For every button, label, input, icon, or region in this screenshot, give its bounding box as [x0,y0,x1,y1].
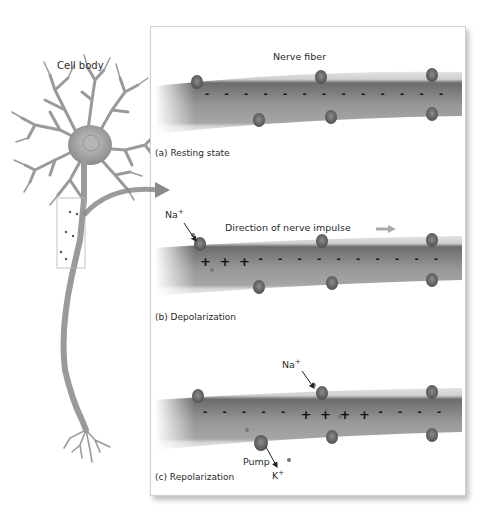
negative-charge: - [418,406,422,417]
panel-b-title: Direction of nerve impulse [225,222,351,233]
negative-charge: - [303,88,307,99]
nerve-fiber-label: Nerve fiber [273,51,326,62]
charges-panel-b: +++---------- [200,256,460,270]
negative-charge: - [361,88,365,99]
negative-charge: - [278,253,282,264]
k-ion-label: K+ [272,469,284,481]
negative-charge: - [415,253,419,264]
positive-charge: + [301,407,312,422]
charges-panel-a: ------------- [205,91,465,105]
negative-charge: - [322,88,326,99]
magnify-arrow [84,189,158,215]
negative-charge: - [400,88,404,99]
positive-charge: + [239,254,250,269]
panel-b-caption: (b) Depolarization [155,312,236,322]
positive-charge: + [200,254,211,269]
negative-charge: - [281,406,285,417]
negative-charge: - [264,88,268,99]
na-ion-label-c: Na+ [282,358,301,370]
negative-charge: - [203,406,207,417]
negative-charge: - [379,406,383,417]
charges-panel-c: -----++++---- [203,409,463,423]
negative-charge: - [205,88,209,99]
negative-charge: - [420,88,424,99]
pump-label: Pump [243,456,270,467]
negative-charge: - [434,253,438,264]
cell-body-label: Cell body [57,60,104,71]
negative-charge: - [337,253,341,264]
negative-charge: - [262,406,266,417]
panel-a-caption: (a) Resting state [155,148,230,158]
negative-charge: - [244,88,248,99]
negative-charge: - [225,88,229,99]
negative-charge: - [381,88,385,99]
na-ion-label-b: Na+ [165,208,184,220]
negative-charge: - [439,88,443,99]
negative-charge: - [242,406,246,417]
negative-charge: - [398,406,402,417]
negative-charge: - [317,253,321,264]
negative-charge: - [376,253,380,264]
positive-charge: + [220,254,231,269]
panel-c-caption: (c) Repolarization [155,472,234,482]
negative-charge: - [395,253,399,264]
negative-charge: - [259,253,263,264]
negative-charge: - [437,406,441,417]
negative-charge: - [342,88,346,99]
negative-charge: - [356,253,360,264]
negative-charge: - [223,406,227,417]
positive-charge: + [320,407,331,422]
negative-charge: - [283,88,287,99]
positive-charge: + [359,407,370,422]
positive-charge: + [340,407,351,422]
negative-charge: - [298,253,302,264]
